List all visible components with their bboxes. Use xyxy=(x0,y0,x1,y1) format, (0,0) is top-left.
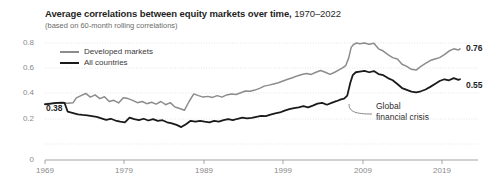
series-line-developed-markets xyxy=(45,43,460,110)
x-axis-line xyxy=(45,160,478,164)
chart-container: Average correlations between equity mark… xyxy=(0,0,499,186)
annotation-leader-line xyxy=(349,104,372,114)
chart-plot-area xyxy=(0,0,499,186)
gridlines xyxy=(45,43,478,144)
